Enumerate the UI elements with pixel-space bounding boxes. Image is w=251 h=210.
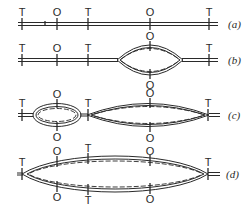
origin-label: O <box>53 191 62 203</box>
row-c: T O T O T O O (c) <box>18 87 241 144</box>
terminus-label: T <box>206 6 213 18</box>
origin-label: O <box>53 145 62 157</box>
origin-label: O <box>53 88 62 100</box>
terminus-label: T <box>19 42 26 54</box>
caption-d: (d) <box>226 168 239 181</box>
row-d: T O T O T O T O (d) <box>17 142 239 206</box>
terminus-label: T <box>85 42 92 54</box>
origin-label: O <box>146 6 155 18</box>
terminus-label: T <box>19 6 26 18</box>
row-a: T O T O T (a) <box>18 6 241 31</box>
replication-diagram: T O T O T (a) T O T O T O (b) <box>0 0 251 210</box>
caption-b: (b) <box>228 54 241 67</box>
terminus-label: T <box>85 6 92 18</box>
origin-label: O <box>146 30 155 42</box>
caption-c: (c) <box>228 109 241 122</box>
origin-label: O <box>146 132 155 144</box>
origin-label: O <box>146 145 155 157</box>
origin-label: O <box>146 193 155 205</box>
origin-label: O <box>146 87 155 99</box>
terminus-label: T <box>206 42 213 54</box>
terminus-label: T <box>85 194 92 206</box>
caption-a: (a) <box>228 18 241 31</box>
origin-label: O <box>53 6 62 18</box>
terminus-label: T <box>19 97 26 109</box>
terminus-label: T <box>85 142 92 154</box>
origin-label: O <box>53 131 62 143</box>
terminus-label: T <box>19 156 26 168</box>
origin-label: O <box>53 42 62 54</box>
terminus-label: T <box>85 97 92 109</box>
terminus-label: T <box>205 97 212 109</box>
terminus-label: T <box>205 156 212 168</box>
row-b: T O T O T O (b) <box>18 30 241 91</box>
